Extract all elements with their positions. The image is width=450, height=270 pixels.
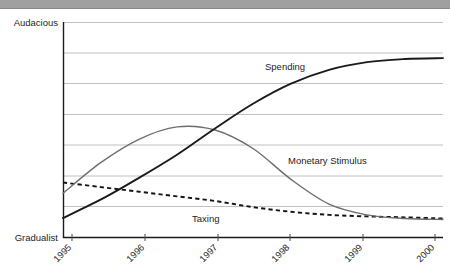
x-tick-label: 1998 — [270, 242, 292, 264]
x-tick-label: 1997 — [198, 242, 220, 264]
chart-svg: Audacious Gradualist 1995 1996 1997 1998… — [0, 0, 450, 270]
series-label-taxing: Taxing — [192, 213, 219, 224]
line-chart: Audacious Gradualist 1995 1996 1997 1998… — [0, 0, 450, 270]
x-tick-label: 1999 — [343, 242, 365, 264]
series-line-monetary-stimulus — [63, 126, 443, 219]
x-tick-labels: 1995 1996 1997 1998 1999 2000 — [52, 242, 437, 264]
y-axis-low-label: Gradualist — [15, 232, 59, 243]
x-tick-label: 1995 — [52, 242, 74, 264]
axes — [63, 22, 443, 238]
x-tick-label: 1996 — [125, 242, 147, 264]
series-label-monetary-stimulus: Monetary Stimulus — [288, 155, 367, 166]
gridlines — [63, 23, 443, 207]
series-label-spending: Spending — [265, 61, 305, 72]
x-tick-label: 2000 — [415, 242, 437, 264]
y-axis-high-label: Audacious — [14, 17, 59, 28]
series-line-spending — [63, 58, 443, 218]
